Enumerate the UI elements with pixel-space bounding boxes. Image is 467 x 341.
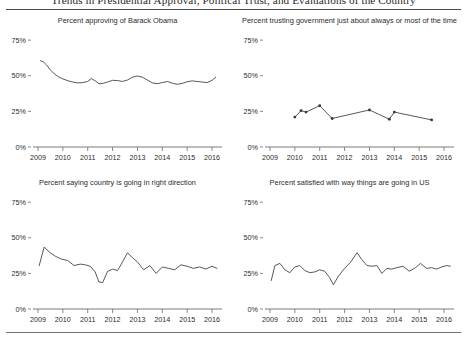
data-point-marker (318, 104, 321, 107)
x-tick-label: 2015 (411, 153, 427, 162)
x-tick-label: 2011 (312, 315, 327, 324)
x-tick-label: 2009 (30, 153, 46, 162)
data-series-line (295, 106, 432, 120)
figure-title: Trends in Presidential Approval, Politic… (0, 0, 467, 6)
panel-government-trust: Percent trusting government just about a… (235, 16, 464, 171)
y-tick-label: 50% (244, 233, 259, 242)
y-tick-label: 50% (12, 71, 27, 80)
x-tick-label: 2015 (411, 315, 427, 324)
panel-title: Percent trusting government just about a… (235, 16, 464, 25)
y-tick-label: 0% (248, 143, 259, 152)
y-tick-label: 75% (244, 36, 259, 45)
x-tick-label: 2010 (55, 153, 71, 162)
x-tick-label: 2010 (287, 153, 303, 162)
y-tick-label: 25% (12, 107, 27, 116)
data-series-line (271, 253, 450, 285)
x-tick-label: 2012 (105, 315, 121, 324)
y-tick-label: 75% (12, 198, 27, 207)
panel-right-direction: Percent saying country is going in right… (3, 178, 232, 333)
y-tick-label: 75% (12, 36, 27, 45)
x-tick-label: 2016 (204, 153, 220, 162)
data-point-marker (368, 109, 371, 112)
x-tick-label: 2009 (30, 315, 46, 324)
data-point-marker (388, 118, 391, 121)
x-tick-label: 2014 (386, 315, 402, 324)
data-series-line (40, 61, 215, 85)
x-tick-label: 2014 (154, 315, 170, 324)
x-tick-label: 2012 (105, 153, 121, 162)
data-point-marker (393, 111, 396, 114)
x-tick-label: 2014 (154, 153, 170, 162)
x-tick-label: 2013 (129, 315, 145, 324)
y-tick-label: 25% (244, 269, 259, 278)
chart-1: 0%25%50%75%20092010201120122013201420152… (235, 25, 464, 171)
data-point-marker (300, 109, 303, 112)
panel-obama-approval: Percent approving of Barack Obama 0%25%5… (3, 16, 232, 171)
chart-2: 0%25%50%75%20092010201120122013201420152… (3, 187, 232, 333)
data-point-marker (293, 116, 296, 119)
panel-title: Percent satisfied with way things are go… (235, 178, 464, 187)
y-tick-label: 50% (12, 233, 27, 242)
x-tick-label: 2012 (337, 153, 353, 162)
x-tick-label: 2010 (287, 315, 303, 324)
x-tick-label: 2016 (436, 315, 452, 324)
data-point-marker (430, 118, 433, 121)
x-tick-label: 2013 (361, 153, 377, 162)
x-tick-label: 2016 (436, 153, 452, 162)
x-tick-label: 2010 (55, 315, 71, 324)
panel-title: Percent saying country is going in right… (3, 178, 232, 187)
y-tick-label: 25% (12, 269, 27, 278)
x-tick-label: 2016 (204, 315, 220, 324)
x-tick-label: 2011 (80, 153, 95, 162)
y-tick-label: 0% (248, 305, 259, 314)
x-tick-label: 2011 (312, 153, 327, 162)
panel-title: Percent approving of Barack Obama (3, 16, 232, 25)
data-point-marker (305, 111, 308, 114)
x-tick-label: 2011 (80, 315, 95, 324)
panel-satisfaction-us: Percent satisfied with way things are go… (235, 178, 464, 333)
x-tick-label: 2013 (361, 315, 377, 324)
chart-3: 0%25%50%75%20092010201120122013201420152… (235, 187, 464, 333)
y-tick-label: 0% (16, 143, 27, 152)
title-divider (6, 9, 461, 10)
chart-0: 0%25%50%75%20092010201120122013201420152… (3, 25, 232, 171)
x-tick-label: 2009 (262, 315, 278, 324)
x-tick-label: 2014 (386, 153, 402, 162)
y-tick-label: 25% (244, 107, 259, 116)
x-tick-label: 2015 (179, 153, 195, 162)
x-tick-label: 2012 (337, 315, 353, 324)
y-tick-label: 0% (16, 305, 27, 314)
y-tick-label: 50% (244, 71, 259, 80)
data-series-line (39, 247, 217, 283)
y-tick-label: 75% (244, 198, 259, 207)
x-tick-label: 2015 (179, 315, 195, 324)
x-tick-label: 2013 (129, 153, 145, 162)
data-point-marker (331, 117, 334, 120)
x-tick-label: 2009 (262, 153, 278, 162)
